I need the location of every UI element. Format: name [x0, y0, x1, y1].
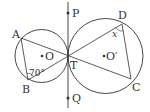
point-q	[67, 97, 70, 100]
label-b: B	[22, 83, 30, 96]
angle-label-d: x	[112, 29, 117, 39]
label-d: D	[118, 9, 127, 22]
label-c: C	[132, 81, 140, 94]
tangent-circles-diagram: A B C D P Q T O O′ 70° x	[0, 0, 150, 112]
geometry-figure: A B C D P Q T O O′ 70° x	[0, 0, 150, 112]
center-o-prime	[103, 55, 106, 58]
label-o: O	[45, 50, 54, 63]
segment-dc	[122, 24, 131, 79]
center-o	[41, 55, 44, 58]
label-q: Q	[72, 92, 81, 105]
label-p: P	[72, 7, 80, 20]
label-t: T	[70, 59, 78, 72]
angle-label-b: 70°	[29, 68, 45, 78]
label-o-prime: O′	[106, 50, 118, 63]
label-a: A	[11, 28, 21, 41]
point-p	[67, 12, 70, 15]
